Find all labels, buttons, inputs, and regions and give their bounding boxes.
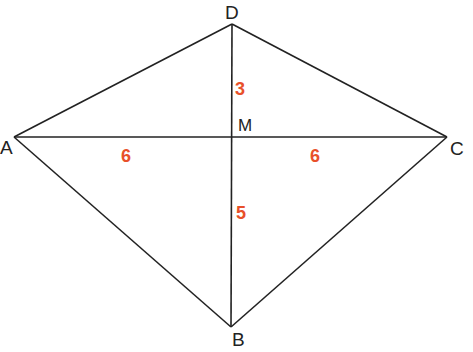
length-label-MB: 5 [236, 203, 246, 223]
vertex-label-B: B [232, 329, 245, 350]
length-label-AM: 6 [121, 146, 131, 166]
vertex-label-C: C [450, 138, 464, 159]
edge-AD [14, 24, 232, 137]
kite-diagram: D A C B M 3 6 6 5 [0, 0, 473, 352]
edge-CB [231, 137, 447, 327]
point-label-M: M [238, 116, 252, 135]
length-label-DM: 3 [235, 79, 245, 99]
vertex-label-D: D [225, 2, 239, 23]
diagonal-DB [231, 24, 232, 327]
length-label-MC: 6 [310, 146, 320, 166]
edge-DC [232, 24, 447, 137]
vertex-label-A: A [0, 137, 13, 158]
